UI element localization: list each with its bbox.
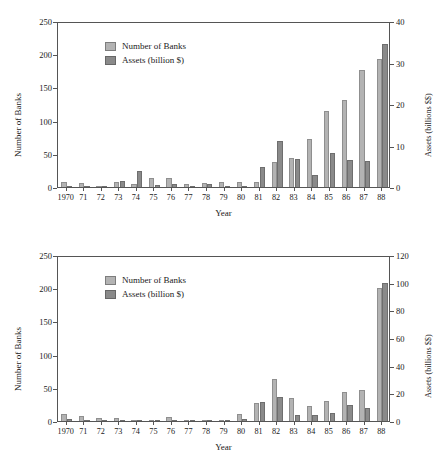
bar-assets xyxy=(382,283,387,421)
y-tick-mark-right xyxy=(390,339,394,340)
bar-number-of-banks xyxy=(79,183,84,187)
bar-number-of-banks xyxy=(254,182,259,187)
bar-group xyxy=(198,23,216,187)
bar-assets xyxy=(330,153,335,187)
x-tick-mark xyxy=(224,422,225,425)
bar-number-of-banks xyxy=(114,182,119,187)
bar-number-of-banks xyxy=(237,414,242,421)
bar-assets xyxy=(347,405,352,421)
bar-assets xyxy=(260,402,265,421)
y-tick-label-left: 100 xyxy=(39,118,52,127)
bar-number-of-banks xyxy=(359,390,364,421)
bar-number-of-banks xyxy=(131,184,136,187)
x-axis-title-bottom: Year xyxy=(57,443,390,452)
legend-row-banks: Number of Banks xyxy=(105,41,186,52)
bar-number-of-banks xyxy=(377,59,382,187)
y-tick-mark-right xyxy=(390,188,394,189)
y-tick-mark-left xyxy=(53,322,57,323)
y-tick-label-right: 40 xyxy=(396,18,405,27)
bar-number-of-banks xyxy=(166,178,171,187)
x-tick-mark xyxy=(311,188,312,191)
bar-group xyxy=(251,23,269,187)
bar-group xyxy=(268,23,286,187)
x-tick-mark xyxy=(66,422,67,425)
y-tick-mark-right xyxy=(390,147,394,148)
y-tick-label-right: 80 xyxy=(396,307,405,316)
x-tick-mark xyxy=(294,422,295,425)
x-tick-mark xyxy=(364,188,365,191)
x-tick-mark xyxy=(241,422,242,425)
bar-number-of-banks xyxy=(96,186,101,187)
bar-group xyxy=(286,23,304,187)
bar-number-of-banks xyxy=(96,418,101,421)
y-axis-title-left-bottom: Number of Banks xyxy=(14,327,23,391)
bar-number-of-banks xyxy=(184,420,189,421)
bar-number-of-banks xyxy=(377,288,382,421)
bar-assets xyxy=(225,420,230,421)
bar-assets xyxy=(120,181,125,187)
bar-assets xyxy=(277,141,282,187)
bar-number-of-banks xyxy=(237,182,242,187)
legend-label-assets: Assets (billion $) xyxy=(122,56,184,65)
y-tick-mark-left xyxy=(53,422,57,423)
y-tick-label-left: 0 xyxy=(48,184,52,193)
bar-group xyxy=(58,23,76,187)
y-tick-label-left: 0 xyxy=(48,418,52,427)
y-tick-mark-right xyxy=(390,22,394,23)
bar-number-of-banks xyxy=(359,70,364,187)
bar-assets xyxy=(295,159,300,187)
x-tick-label: 88 xyxy=(365,194,397,202)
y-tick-label-right: 20 xyxy=(396,101,405,110)
x-tick-mark xyxy=(346,188,347,191)
plot-frame-top: Number of Banks Assets (billion $) xyxy=(57,22,390,188)
bar-assets xyxy=(242,419,247,421)
bar-assets xyxy=(242,186,247,187)
y-tick-mark-right xyxy=(390,367,394,368)
x-tick-mark xyxy=(276,422,277,425)
bar-number-of-banks xyxy=(166,417,171,421)
bar-number-of-banks xyxy=(202,420,207,421)
bar-number-of-banks xyxy=(342,100,347,187)
x-tick-mark xyxy=(364,422,365,425)
bar-group xyxy=(233,257,251,421)
bar-group xyxy=(338,257,356,421)
y-tick-label-left: 200 xyxy=(39,285,52,294)
bar-group xyxy=(251,257,269,421)
chart-top: Number of Banks Assets (billion $) 05010… xyxy=(0,2,438,236)
bar-assets xyxy=(382,44,387,187)
x-tick-mark xyxy=(66,188,67,191)
y-tick-label-left: 250 xyxy=(39,252,52,261)
x-tick-mark xyxy=(346,422,347,425)
x-tick-mark xyxy=(153,188,154,191)
bar-number-of-banks xyxy=(219,420,224,421)
x-tick-mark xyxy=(206,422,207,425)
bar-number-of-banks xyxy=(79,416,84,421)
y-tick-label-left: 50 xyxy=(44,385,53,394)
bar-number-of-banks xyxy=(272,379,277,421)
bar-assets xyxy=(172,184,177,187)
bar-group xyxy=(356,257,374,421)
x-tick-mark xyxy=(329,422,330,425)
legend-row-banks: Number of Banks xyxy=(105,275,186,286)
x-tick-mark xyxy=(294,188,295,191)
bar-assets xyxy=(207,420,212,421)
bar-number-of-banks xyxy=(324,401,329,421)
bar-assets xyxy=(67,419,72,421)
bar-group xyxy=(58,257,76,421)
y-tick-mark-right xyxy=(390,422,394,423)
bar-assets xyxy=(155,185,160,187)
bar-assets xyxy=(330,413,335,421)
y-tick-mark-right xyxy=(390,105,394,106)
bar-assets xyxy=(102,186,107,187)
bar-group xyxy=(216,257,234,421)
x-tick-mark xyxy=(381,188,382,191)
y-axis-title-right-top: Assets (billions $$) xyxy=(425,93,433,157)
x-tick-mark xyxy=(381,422,382,425)
y-tick-mark-left xyxy=(53,289,57,290)
figure-container: Number of Banks Assets (billion $) 05010… xyxy=(0,0,438,474)
bar-assets xyxy=(120,420,125,421)
y-tick-label-right: 60 xyxy=(396,335,405,344)
y-tick-mark-left xyxy=(53,55,57,56)
y-tick-mark-right xyxy=(390,64,394,65)
x-tick-mark xyxy=(259,188,260,191)
